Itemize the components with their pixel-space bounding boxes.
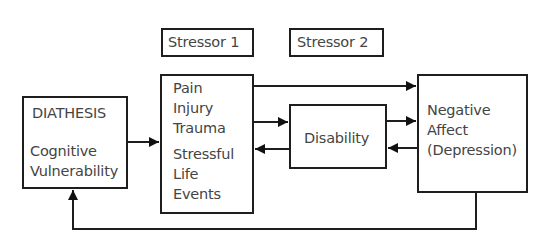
- connector-layer: [0, 0, 549, 252]
- edge-negative-affect-to-diathesis: [73, 190, 476, 229]
